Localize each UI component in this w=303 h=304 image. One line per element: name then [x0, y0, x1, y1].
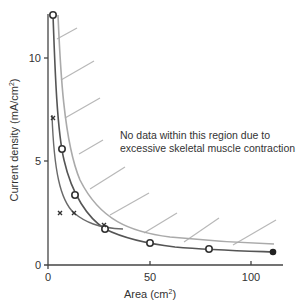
y-tick-0: 0 [35, 259, 41, 271]
x-tick-50: 50 [144, 271, 156, 283]
annotation-line-1: No data within this region due to [120, 129, 270, 141]
cross-point [58, 211, 62, 215]
x-axis-label: Area (cm2) [124, 288, 176, 300]
data-point [72, 192, 78, 198]
filled-data-point [270, 249, 277, 256]
data-point [206, 246, 212, 252]
annotation-line-2: excessive skeletal muscle contraction [120, 142, 295, 154]
chart: 0 5 10 0 50 100 Area (cm2) Current densi… [0, 0, 303, 304]
x-tick-100: 100 [242, 271, 260, 283]
data-point [147, 240, 153, 246]
data-point [50, 12, 56, 18]
y-tick-5: 5 [35, 155, 41, 167]
y-axis-label: Current density (mA/cm2) [8, 78, 20, 201]
cross-point [72, 211, 76, 215]
data-point [59, 146, 65, 152]
x-tick-0: 0 [45, 271, 51, 283]
y-tick-10: 10 [29, 52, 41, 64]
